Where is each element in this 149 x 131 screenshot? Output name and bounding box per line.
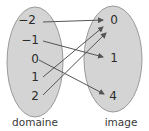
image-element: 0	[110, 13, 118, 27]
domain-element: 1	[31, 70, 39, 84]
domain-caption: domaine	[12, 116, 58, 128]
image-element: 1	[110, 51, 118, 65]
domain-element: −2	[18, 13, 36, 27]
image-caption: image	[105, 116, 138, 128]
mapping-diagram: −2 −1 0 1 2 0 1 4 domaine image	[0, 0, 149, 131]
domain-element: −1	[21, 33, 39, 47]
domain-element: 0	[31, 52, 39, 66]
image-element: 4	[109, 89, 117, 103]
domain-element: 2	[31, 89, 39, 103]
